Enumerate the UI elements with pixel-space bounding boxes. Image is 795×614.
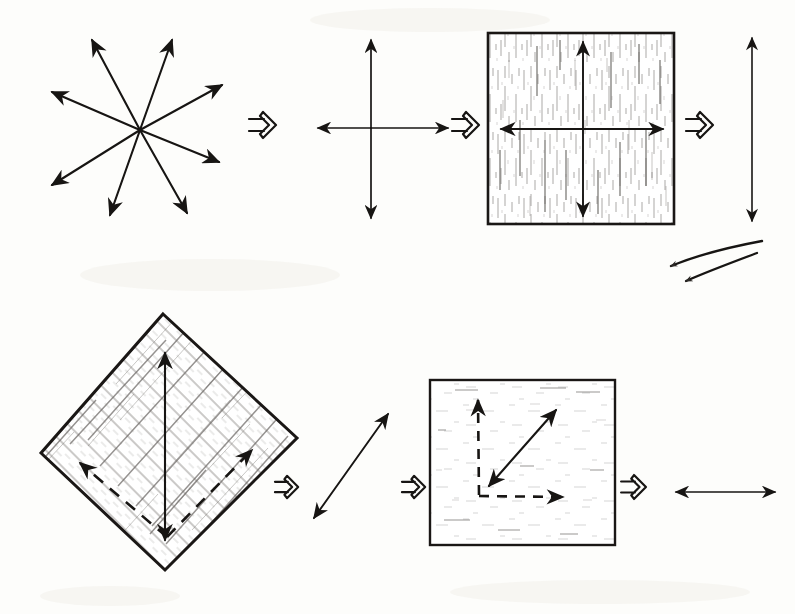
figure-page [0, 0, 795, 614]
symmetry-reduction-figure [0, 0, 795, 614]
boxed-cross [488, 33, 674, 224]
boxed-diagonal [430, 380, 615, 545]
